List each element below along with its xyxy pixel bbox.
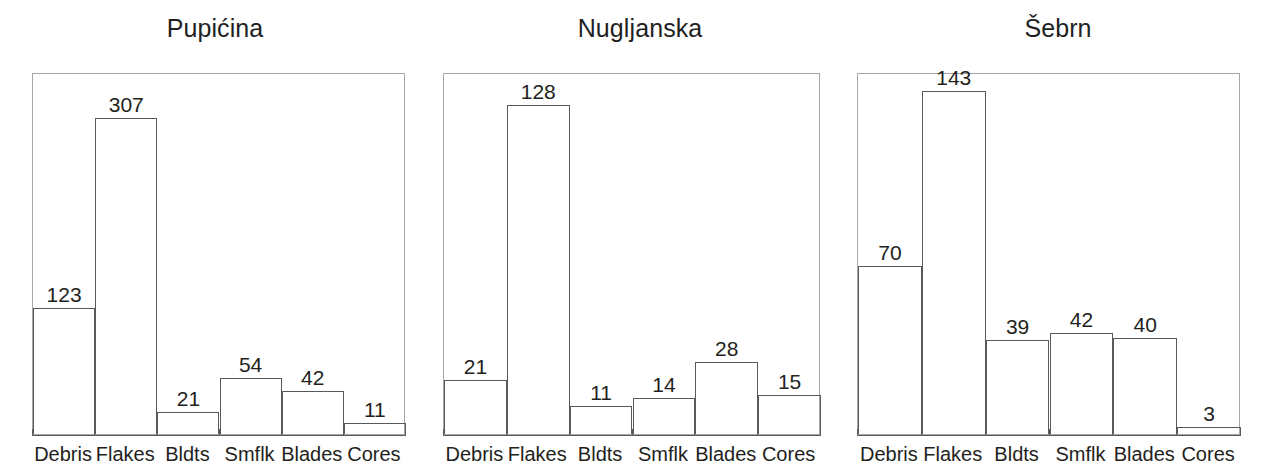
- x-axis-category-label: Flakes: [96, 444, 155, 464]
- x-axis-tick: [405, 429, 406, 436]
- bar: [570, 406, 633, 434]
- x-axis-tick: [985, 429, 986, 436]
- x-axis-category-label: Blades: [1114, 444, 1175, 464]
- bar-value-label: 15: [778, 371, 801, 392]
- panel-title: Pupićina: [0, 14, 430, 42]
- bar-series: 2112811142815: [444, 74, 819, 434]
- x-axis-tick: [1112, 429, 1113, 436]
- bar: [986, 340, 1050, 434]
- bar-value-label: 39: [1006, 316, 1029, 337]
- bar-value-label: 42: [1070, 309, 1093, 330]
- bar: [157, 412, 219, 434]
- x-axis-category-label: Flakes: [923, 444, 982, 464]
- x-axis-tick: [94, 429, 95, 436]
- x-axis-category-label: Smflk: [1055, 444, 1105, 464]
- bar-value-label: 3: [1203, 403, 1215, 424]
- bar-value-label: 70: [878, 242, 901, 263]
- x-axis-category-label: Blades: [281, 444, 342, 464]
- x-axis-tick: [343, 429, 344, 436]
- bar: [33, 308, 95, 435]
- x-axis-category-label: Smflk: [638, 444, 688, 464]
- x-axis-tick: [820, 429, 821, 436]
- bar-value-label: 42: [301, 367, 324, 388]
- x-axis-tick: [156, 429, 157, 436]
- bar-value-label: 11: [364, 399, 386, 420]
- bar: [695, 362, 758, 434]
- bar-value-label: 143: [936, 67, 971, 88]
- bar: [220, 378, 282, 434]
- bar: [507, 105, 570, 434]
- x-axis-tick: [506, 429, 507, 436]
- x-axis-tick: [569, 429, 570, 436]
- x-axis-category-label: Bldts: [578, 444, 622, 464]
- plot-area: 701433942403: [857, 73, 1240, 435]
- x-axis-tick: [32, 429, 33, 436]
- x-axis-tick: [219, 429, 220, 436]
- bar: [282, 391, 344, 434]
- bar-value-label: 54: [239, 354, 262, 375]
- bar: [95, 118, 157, 434]
- plot-area: 2112811142815: [443, 73, 820, 435]
- bar-series: 12330721544211: [33, 74, 404, 434]
- bar: [1050, 333, 1114, 434]
- panel-title: Šebrn: [845, 14, 1271, 42]
- bar: [922, 91, 986, 434]
- bar-value-label: 14: [652, 374, 675, 395]
- x-axis-category-label: Bldts: [165, 444, 209, 464]
- x-axis-tick: [921, 429, 922, 436]
- bar-series: 701433942403: [858, 74, 1239, 434]
- x-axis-category-label: Blades: [695, 444, 756, 464]
- bar-value-label: 21: [177, 388, 200, 409]
- x-axis-tick: [857, 429, 858, 436]
- bar-value-label: 21: [464, 356, 487, 377]
- bar-value-label: 11: [590, 382, 612, 403]
- chart-panel: Pupićina12330721544211DebrisFlakesBldtsS…: [0, 0, 430, 475]
- bar: [1177, 427, 1241, 434]
- bar-value-label: 28: [715, 338, 738, 359]
- bar: [1113, 338, 1177, 434]
- bar: [444, 380, 507, 434]
- bar: [858, 266, 922, 434]
- x-axis-category-label: Cores: [1181, 444, 1234, 464]
- x-axis-tick: [443, 429, 444, 436]
- x-axis-category-label: Debris: [860, 444, 918, 464]
- bar-value-label: 307: [109, 94, 144, 115]
- bar-value-label: 40: [1134, 314, 1157, 335]
- bar: [344, 423, 406, 434]
- panel-title: Nugljanska: [430, 14, 850, 42]
- x-axis-tick: [1176, 429, 1177, 436]
- x-axis-tick: [632, 429, 633, 436]
- plot-area: 12330721544211: [32, 73, 405, 435]
- x-axis-tick: [757, 429, 758, 436]
- x-axis-tick: [1049, 429, 1050, 436]
- x-axis-category-label: Cores: [347, 444, 400, 464]
- bar-value-label: 123: [47, 284, 82, 305]
- x-axis-category-label: Debris: [34, 444, 92, 464]
- x-axis-tick: [281, 429, 282, 436]
- bar-value-label: 128: [521, 81, 556, 102]
- chart-panel: Šebrn701433942403DebrisFlakesBldtsSmflkB…: [845, 0, 1271, 475]
- x-axis-category-label: Smflk: [225, 444, 275, 464]
- chart-panel: Nugljanska2112811142815DebrisFlakesBldts…: [430, 0, 850, 475]
- x-axis-category-label: Cores: [762, 444, 815, 464]
- x-axis-category-label: Bldts: [994, 444, 1038, 464]
- x-axis-category-label: Flakes: [508, 444, 567, 464]
- x-axis-tick: [1240, 429, 1241, 436]
- x-axis-category-label: Debris: [446, 444, 504, 464]
- bar: [758, 395, 821, 434]
- bar: [633, 398, 696, 434]
- multi-panel-bar-chart-figure: Pupićina12330721544211DebrisFlakesBldtsS…: [0, 0, 1271, 475]
- x-axis-tick: [694, 429, 695, 436]
